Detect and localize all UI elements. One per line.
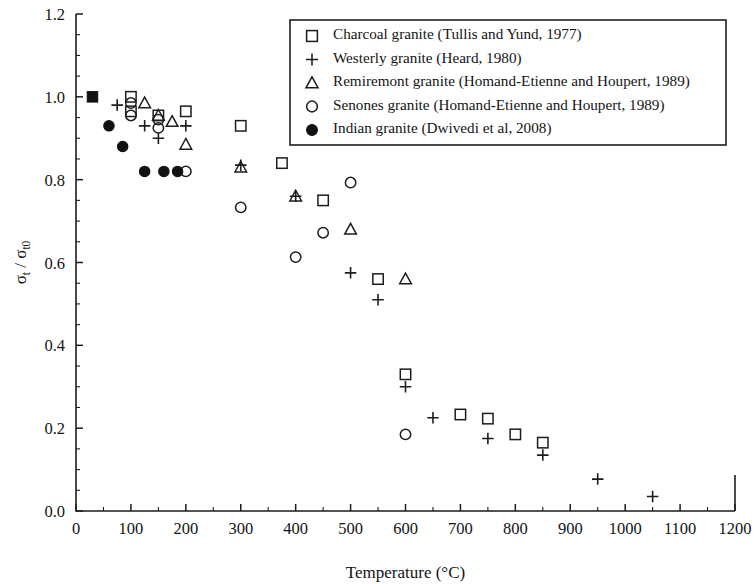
data-point-open-square <box>455 409 465 419</box>
data-point-open-circle <box>236 202 246 212</box>
scatter-plot: 0100200300400500600700800900100011001200… <box>0 0 755 584</box>
y-axis-title-text: σt / σt0 <box>11 240 32 284</box>
data-point-open-square <box>236 121 246 131</box>
x-axis-title: Temperature (°C) <box>346 563 465 582</box>
y-tick-label: 0.0 <box>44 502 65 521</box>
legend-label: Westerly granite (Heard, 1980) <box>333 49 522 67</box>
legend-marker-filled-circle <box>307 125 318 136</box>
data-point-plus <box>111 99 123 111</box>
x-tick-label: 1200 <box>719 519 752 538</box>
data-point-filled-square <box>87 92 97 102</box>
data-point-open-triangle <box>345 223 357 234</box>
data-point-plus <box>482 433 494 445</box>
y-tick-label: 1.0 <box>44 88 65 107</box>
y-tick-label: 1.2 <box>44 5 65 24</box>
data-point-open-triangle <box>400 273 412 284</box>
data-point-open-circle <box>400 429 410 439</box>
y-tick-label: 0.2 <box>44 419 65 438</box>
data-point-open-square <box>538 437 548 447</box>
data-point-open-square <box>373 274 383 284</box>
data-point-open-circle <box>345 177 355 187</box>
data-point-open-square <box>277 158 287 168</box>
data-point-open-square <box>400 369 410 379</box>
data-point-open-circle <box>290 252 300 262</box>
x-tick-label: 800 <box>503 519 528 538</box>
data-point-plus <box>592 473 604 485</box>
data-point-filled-circle <box>172 166 182 176</box>
data-point-open-square <box>318 195 328 205</box>
data-point-plus <box>400 381 412 393</box>
chart-figure: 0100200300400500600700800900100011001200… <box>0 0 755 584</box>
data-point-open-square <box>181 106 191 116</box>
data-point-plus <box>537 449 549 461</box>
y-tick-label: 0.8 <box>44 171 65 190</box>
series-group <box>126 98 411 440</box>
x-tick-label: 900 <box>558 519 583 538</box>
data-point-plus <box>427 412 439 424</box>
data-point-filled-circle <box>104 121 114 131</box>
x-tick-label: 100 <box>119 519 144 538</box>
data-point-plus <box>139 120 151 132</box>
x-tick-label: 600 <box>393 519 418 538</box>
x-tick-label: 300 <box>228 519 253 538</box>
legend-label: Senones granite (Homand-Etienne and Houp… <box>333 96 665 114</box>
x-tick-label: 1000 <box>609 519 642 538</box>
series-group <box>104 121 183 177</box>
data-point-plus <box>345 267 357 279</box>
data-point-open-square <box>510 429 520 439</box>
x-tick-label: 200 <box>173 519 198 538</box>
x-tick-label: 1100 <box>664 519 696 538</box>
data-point-open-circle <box>318 227 328 237</box>
y-tick-label: 0.6 <box>44 254 65 273</box>
data-point-plus <box>153 133 165 145</box>
data-markers <box>87 92 658 503</box>
data-point-open-circle <box>126 110 136 120</box>
x-tick-label: 500 <box>338 519 363 538</box>
y-axis-title: σt / σt0 <box>11 240 32 284</box>
legend-label: Remiremont granite (Homand-Etienne and H… <box>333 72 690 90</box>
data-point-open-triangle <box>180 138 192 149</box>
legend: Charcoal granite (Tullis and Yund, 1977)… <box>290 20 726 145</box>
x-tick-label: 700 <box>448 519 473 538</box>
data-point-plus <box>372 294 384 306</box>
data-point-plus <box>647 491 659 503</box>
legend-label: Charcoal granite (Tullis and Yund, 1977) <box>333 25 582 43</box>
series-group <box>87 92 97 102</box>
x-tick-label: 400 <box>283 519 308 538</box>
data-point-open-triangle <box>139 97 151 108</box>
data-point-filled-circle <box>117 141 127 151</box>
data-point-open-triangle <box>166 116 178 127</box>
y-tick-label: 0.4 <box>44 336 65 355</box>
legend-label: Indian granite (Dwivedi et al, 2008) <box>333 119 551 137</box>
data-point-plus <box>180 120 192 132</box>
data-point-open-square <box>483 413 493 423</box>
x-tick-label: 0 <box>72 519 80 538</box>
series-group <box>111 99 658 502</box>
data-point-filled-circle <box>159 166 169 176</box>
data-point-filled-circle <box>139 166 149 176</box>
